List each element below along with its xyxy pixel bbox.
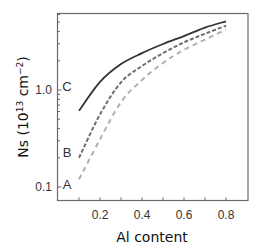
series-line-a bbox=[79, 30, 226, 180]
x-tick-label: 0.2 bbox=[92, 208, 109, 222]
x-tick-label: 0.6 bbox=[176, 208, 193, 222]
curve-label-a: A bbox=[63, 177, 72, 192]
y-axis-title: Ns (1013 cm−2) bbox=[15, 56, 31, 158]
curve-label-b: B bbox=[63, 145, 72, 160]
x-tick-label: 0.8 bbox=[218, 208, 235, 222]
x-tick-label: 0.4 bbox=[134, 208, 151, 222]
curve-label-c: C bbox=[62, 79, 71, 94]
chart: 0.20.40.60.8 0.11.0 ABC Al content Ns (1… bbox=[0, 0, 259, 249]
curve-labels: ABC bbox=[62, 79, 71, 192]
x-axis-ticks: 0.20.40.60.8 bbox=[79, 198, 235, 223]
x-axis-title: Al content bbox=[116, 229, 188, 245]
y-tick-label: 1.0 bbox=[35, 83, 52, 97]
y-tick-label: 0.1 bbox=[35, 180, 52, 194]
plot-frame bbox=[58, 14, 249, 201]
series-group bbox=[79, 21, 226, 179]
